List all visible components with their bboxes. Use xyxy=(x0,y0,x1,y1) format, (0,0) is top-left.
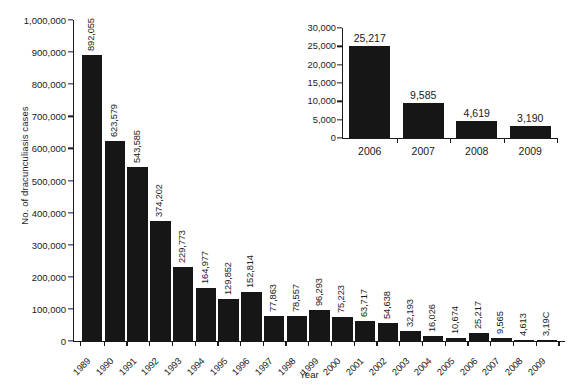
main-bar-rect xyxy=(287,316,307,341)
main-bar-value-label: 9,565 xyxy=(496,311,506,334)
main-bar-1994[interactable]: 164,977 xyxy=(196,20,216,341)
main-bar-rect xyxy=(355,321,375,341)
main-x-tick-mark xyxy=(172,342,173,346)
main-bar-value-label: 4,613 xyxy=(518,313,528,336)
inset-bar-rect xyxy=(349,46,390,138)
inset-bar-value-label: 3,190 xyxy=(517,112,543,124)
inset-bar-value-label: 4,619 xyxy=(464,107,490,119)
main-x-tick-mark xyxy=(240,342,241,346)
inset-bar-2006[interactable]: 25,217 xyxy=(349,28,390,138)
main-x-tick-mark xyxy=(536,342,537,346)
main-x-tick-mark xyxy=(126,342,127,346)
main-bar-rect xyxy=(264,316,284,341)
inset-bar-rect xyxy=(403,103,444,138)
inset-x-tick-mark xyxy=(504,139,505,143)
main-bar-value-label: 32,193 xyxy=(405,299,415,327)
main-x-tick-mark xyxy=(217,342,218,346)
inset-x-tick-mark xyxy=(397,139,398,143)
main-bar-value-label: 892,055 xyxy=(86,18,96,51)
main-bar-value-label: 3,19C xyxy=(541,312,551,336)
inset-plot-area: 25,2179,5854,6193,190 xyxy=(343,28,557,138)
main-x-tick-mark xyxy=(104,342,105,346)
main-x-tick-mark xyxy=(445,342,446,346)
inset-bar-2008[interactable]: 4,619 xyxy=(456,28,497,138)
main-y-tick-label: 800,000 xyxy=(32,79,66,90)
inset-y-tick-mark xyxy=(337,82,342,83)
main-bar-rect xyxy=(491,338,511,341)
main-bar-rect xyxy=(514,340,534,341)
main-bar-rect xyxy=(378,323,398,341)
main-y-tick-label: 400,000 xyxy=(32,207,66,218)
main-bar-value-label: 623,579 xyxy=(109,104,119,137)
main-bar-rect xyxy=(309,310,329,341)
inset-y-tick-label: 15,000 xyxy=(308,78,336,88)
main-bar-value-label: 63,717 xyxy=(359,289,369,317)
main-bar-value-label: 77,863 xyxy=(268,284,278,312)
main-bar-value-label: 16,026 xyxy=(427,304,437,332)
inset-y-tick-label: 25,000 xyxy=(308,41,336,51)
main-x-tick-mark xyxy=(354,342,355,346)
inset-y-tick-mark xyxy=(337,101,342,102)
main-x-tick-mark xyxy=(376,342,377,346)
main-bar-value-label: 54,638 xyxy=(382,292,392,320)
main-bar-rect xyxy=(400,331,420,341)
main-x-tick-mark xyxy=(308,342,309,346)
inset-y-tick-mark xyxy=(337,46,342,47)
main-bar-rect xyxy=(82,55,102,341)
main-bar-value-label: 229,773 xyxy=(177,230,187,263)
inset-bar-rect xyxy=(456,121,497,138)
main-x-tick-mark xyxy=(467,342,468,346)
main-bar-value-label: 374,202 xyxy=(155,184,165,217)
main-bar-rect xyxy=(446,338,466,341)
main-x-tick-mark xyxy=(263,342,264,346)
main-bar-rect xyxy=(332,317,352,341)
main-y-tick-label: 100,000 xyxy=(32,303,66,314)
main-x-tick-mark xyxy=(513,342,514,346)
main-bar-1991[interactable]: 543,585 xyxy=(127,20,147,341)
main-bar-rect xyxy=(105,141,125,341)
inset-y-tick-label: 5,000 xyxy=(313,115,336,125)
main-bar-rect xyxy=(241,292,261,341)
inset-x-tick-label-2009: 2009 xyxy=(519,145,542,157)
main-bar-rect xyxy=(469,333,489,341)
main-bar-value-label: 152,814 xyxy=(246,255,256,288)
main-x-tick-mark xyxy=(490,342,491,346)
main-bar-1992[interactable]: 374,202 xyxy=(150,20,170,341)
main-bar-1990[interactable]: 623,579 xyxy=(105,20,125,341)
main-bar-value-label: 129,852 xyxy=(223,262,233,295)
main-y-tick-label: 900,000 xyxy=(32,47,66,58)
main-bar-rect xyxy=(173,267,193,341)
main-bar-1993[interactable]: 229,773 xyxy=(173,20,193,341)
main-bar-rect xyxy=(218,299,238,341)
inset-y-tick-label: 0 xyxy=(331,133,336,143)
inset-y-tick-mark xyxy=(337,64,342,65)
inset-x-tick-label-2008: 2008 xyxy=(465,145,488,157)
main-bar-value-label: 164,977 xyxy=(200,251,210,284)
main-y-tick-label: 0 xyxy=(61,336,66,347)
main-x-tick-mark xyxy=(285,342,286,346)
main-bar-value-label: 78,557 xyxy=(291,284,301,312)
main-bar-1989[interactable]: 892,055 xyxy=(82,20,102,341)
main-bar-1996[interactable]: 152,814 xyxy=(241,20,261,341)
inset-y-tick-mark xyxy=(337,119,342,120)
inset-bar-2007[interactable]: 9,585 xyxy=(403,28,444,138)
main-bar-rect xyxy=(150,221,170,341)
main-bar-value-label: 75,223 xyxy=(336,285,346,313)
main-y-axis-title: No. of dracunculiasis cases xyxy=(19,56,30,276)
dracunculiasis-cases-figure: No. of dracunculiasis cases 0100,000200,… xyxy=(0,0,578,391)
main-bar-rect xyxy=(423,336,443,341)
inset-x-tick-mark xyxy=(557,139,558,143)
inset-y-tick-mark xyxy=(337,27,342,28)
inset-y-tick-label: 10,000 xyxy=(308,96,336,106)
main-bar-value-label: 25,217 xyxy=(473,301,483,329)
main-x-tick-mark xyxy=(422,342,423,346)
inset-x-tick-mark xyxy=(450,139,451,143)
main-bar-1995[interactable]: 129,852 xyxy=(218,20,238,341)
main-bar-rect xyxy=(537,340,557,341)
inset-y-tick-label: 20,000 xyxy=(308,60,336,70)
main-x-tick-mark xyxy=(149,342,150,346)
inset-bar-2009[interactable]: 3,190 xyxy=(510,28,551,138)
main-x-tick-mark xyxy=(80,342,81,346)
main-x-tick-mark xyxy=(558,342,559,346)
main-x-axis-title: Year xyxy=(0,369,578,380)
